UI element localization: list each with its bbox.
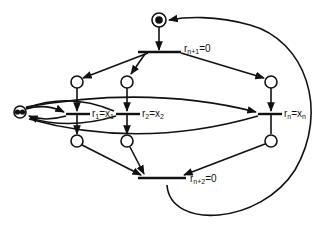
place-in-n	[265, 76, 277, 88]
label-bottom-transition: rn+2=0	[190, 173, 217, 185]
place-out-1	[71, 135, 83, 147]
token-icon	[156, 17, 162, 23]
place-in-2	[121, 76, 133, 88]
petri-net-diagram: rn+1=0 r1=x1 r2=x2 rn=xn rn+2=0	[0, 0, 324, 236]
label-top-transition: rn+1=0	[184, 43, 211, 55]
place-out-2	[121, 135, 133, 147]
label-t2: r2=x2	[142, 108, 164, 120]
place-out-n	[265, 135, 277, 147]
place-start	[152, 13, 166, 27]
place-in-1	[71, 76, 83, 88]
place-left	[14, 106, 26, 118]
label-tn: rn=xn	[284, 108, 306, 120]
